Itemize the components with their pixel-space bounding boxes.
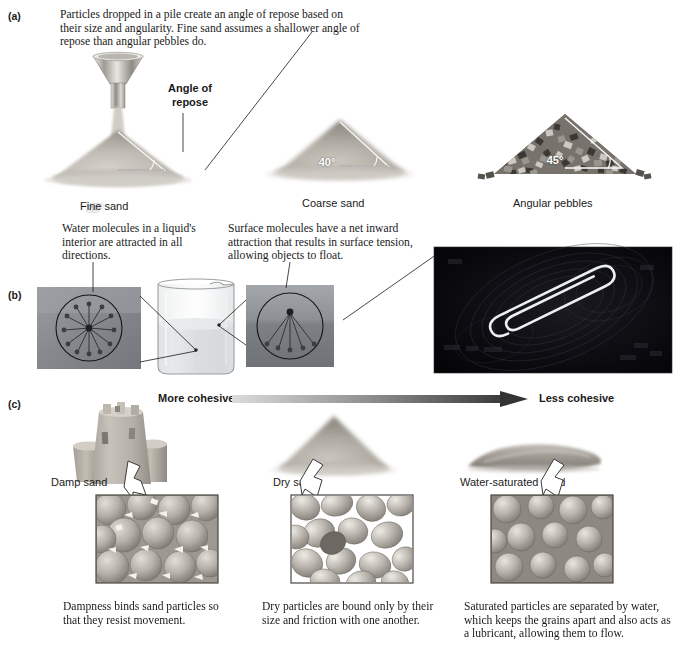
saturated-sand-caption: Saturated particles are separated by wat…	[464, 600, 676, 641]
coarse-sand-group	[252, 110, 432, 190]
damp-sand-grain-box	[96, 495, 218, 583]
castle-crenellation	[131, 405, 139, 415]
panel-a-caption: Particles dropped in a pile create an an…	[60, 8, 360, 49]
angular-pebbles-label: Angular pebbles	[513, 197, 593, 209]
beaker-glass	[158, 284, 234, 374]
angle-of-repose-label-line1: Angle of	[168, 82, 212, 94]
water-saturated-sand-label: Water-saturated sand	[460, 476, 565, 488]
castle-crenellation	[103, 404, 111, 414]
interior-molecule-inset	[37, 287, 141, 369]
surface-molecule-inset	[246, 285, 334, 367]
angle-of-repose-label-line2: repose	[172, 96, 208, 108]
dry-sand-label: Dry sand	[273, 476, 317, 488]
coarse-sand-label: Coarse sand	[302, 197, 364, 209]
damp-sand-caption: Dampness binds sand particles so that th…	[63, 600, 238, 627]
center-molecule-right	[287, 309, 294, 316]
dry-sand-pile	[280, 416, 388, 468]
interior-molecule-dot	[194, 348, 198, 352]
center-molecule-left	[86, 325, 93, 332]
dry-sand-grain-box	[291, 495, 413, 583]
surface-molecule-dot	[217, 323, 221, 327]
dry-sand-caption: Dry particles are bound only by their si…	[262, 600, 447, 627]
fine-sand-group	[30, 52, 220, 212]
coarse-sand-angle-value: 40°	[319, 156, 336, 168]
angular-pebbles-angle-value: 45°	[547, 154, 564, 166]
castle-window	[129, 428, 135, 439]
funnel-stem	[111, 83, 125, 108]
castle-main-tower	[91, 412, 151, 484]
saturated-grains	[483, 493, 617, 582]
damp-sand-castle	[55, 398, 185, 486]
saturated-sand-grain-box	[491, 495, 613, 583]
panel-b-caption-right: Surface molecules have a net inward attr…	[228, 222, 443, 263]
beaker-of-water	[150, 278, 242, 378]
damp-sand-label: Damp sand	[51, 476, 107, 488]
dry-sand-cone	[262, 410, 412, 482]
floating-paperclip-photo	[434, 247, 672, 373]
damp-grains	[88, 490, 224, 584]
panel-b-caption-left: Water molecules in a liquid's interior a…	[62, 222, 222, 263]
panel-label-a: (a)	[8, 10, 21, 22]
cohesion-gradient-arrow	[232, 391, 532, 409]
panel-label-c: (c)	[8, 398, 21, 410]
panel-label-b: (b)	[8, 289, 21, 301]
less-cohesive-label: Less cohesive	[539, 392, 614, 404]
fine-sand-label: Fine sand	[80, 200, 128, 212]
angular-pebbles-group	[470, 108, 660, 193]
castle-window	[102, 432, 109, 444]
